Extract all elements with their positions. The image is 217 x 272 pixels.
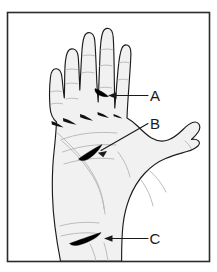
label-c: C: [150, 230, 161, 247]
palm-illustration: A B C: [0, 0, 217, 272]
figure-container: A B C: [0, 0, 217, 272]
label-a: A: [150, 87, 160, 104]
label-b: B: [150, 115, 160, 132]
